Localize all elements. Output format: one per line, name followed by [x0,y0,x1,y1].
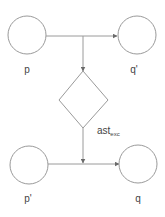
label-p-prime: p' [24,193,32,204]
edge-label-subscript: exc [110,131,119,137]
node-p-prime-circle [10,146,48,184]
label-q-prime: q' [130,64,138,75]
node-p-circle [8,16,46,54]
label-p: p [24,64,30,75]
edge-label-ast-exc: astexc [97,125,120,137]
diagram-canvas: p q' p' q astexc [0,0,165,217]
node-q-prime-circle [118,16,156,54]
label-q: q [135,193,141,204]
node-q-circle [119,145,157,183]
edge-label-main: ast [97,125,111,136]
decision-diamond [59,71,108,128]
